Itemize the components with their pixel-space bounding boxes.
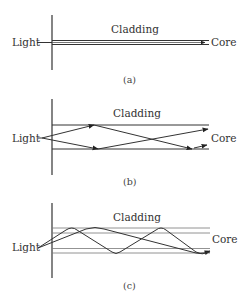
- ray-upper: [42, 125, 94, 138]
- light-label: Light: [12, 132, 41, 144]
- cladding-label: Cladding: [113, 107, 161, 119]
- light-label: Light: [12, 36, 41, 48]
- panel-a: Light Cladding Core (a): [12, 15, 237, 85]
- cladding-label: Cladding: [113, 211, 161, 223]
- panel-caption: (a): [123, 74, 136, 85]
- core-label: Core: [211, 36, 237, 48]
- panel-c: Light Cladding Core (c): [12, 203, 238, 291]
- panel-b: Light Cladding Core (b): [12, 99, 237, 187]
- ray-lower: [42, 138, 98, 149]
- cladding-label: Cladding: [111, 23, 159, 35]
- ray-upper-exit: [194, 145, 207, 148]
- core-label: Core: [211, 132, 237, 144]
- fiber-modes-diagram: Light Cladding Core (a) Light Cladding C…: [0, 0, 244, 308]
- panel-caption: (b): [123, 176, 137, 187]
- ray-lower-reflect: [98, 129, 208, 149]
- ray-upper-reflect: [94, 125, 192, 149]
- core-label: Core: [212, 233, 238, 245]
- panel-caption: (c): [123, 280, 136, 291]
- light-label: Light: [12, 241, 41, 253]
